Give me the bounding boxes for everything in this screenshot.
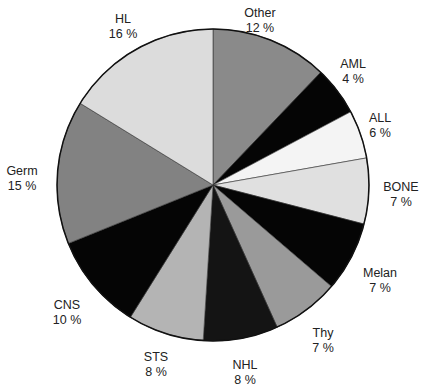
slice-percent: 8 % [232,373,257,388]
slice-percent: 7 % [383,195,418,210]
slice-percent: 10 % [53,313,82,328]
slice-label-bone: BONE7 % [383,180,418,210]
slice-name: ALL [369,111,391,125]
slice-label-all: ALL6 % [369,111,391,141]
pie-slices [57,29,369,341]
slice-percent: 7 % [363,281,397,296]
slice-label-hl: HL16 % [109,12,138,42]
slice-name: BONE [383,180,418,194]
slice-name: HL [115,12,131,26]
slice-name: Germ [6,164,37,178]
slice-name: NHL [232,358,257,372]
slice-name: STS [144,350,168,364]
slice-name: CNS [54,298,80,312]
slice-label-nhl: NHL8 % [232,358,257,388]
slice-percent: 15 % [6,179,37,194]
slice-name: Melan [363,266,397,280]
slice-label-aml: AML4 % [340,57,366,87]
slice-label-other: Other12 % [244,6,275,36]
slice-percent: 7 % [312,341,334,356]
slice-percent: 4 % [340,72,366,87]
slice-name: Thy [313,326,334,340]
slice-label-sts: STS8 % [144,350,168,380]
slice-percent: 12 % [244,21,275,36]
slice-percent: 6 % [369,126,391,141]
slice-name: Other [244,6,275,20]
slice-label-thy: Thy7 % [312,326,334,356]
slice-name: AML [340,57,366,71]
slice-percent: 8 % [144,365,168,380]
slice-label-melan: Melan7 % [363,266,397,296]
slice-label-cns: CNS10 % [53,298,82,328]
slice-percent: 16 % [109,27,138,42]
slice-label-germ: Germ15 % [6,164,37,194]
